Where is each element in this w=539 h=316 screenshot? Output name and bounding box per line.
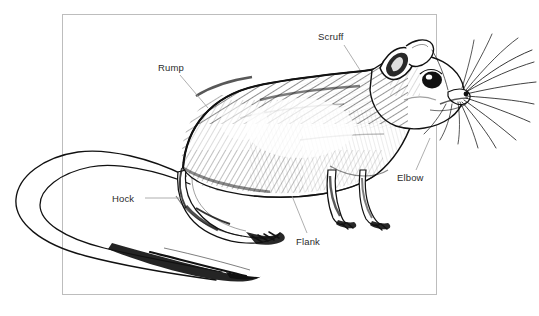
rodent-illustration bbox=[0, 0, 539, 316]
label-flank: Flank bbox=[296, 236, 320, 247]
leader-line-elbow bbox=[416, 138, 430, 170]
label-rump: Rump bbox=[158, 62, 184, 73]
label-scruff: Scruff bbox=[318, 31, 344, 42]
leader-line-scruff bbox=[344, 45, 360, 70]
label-hock: Hock bbox=[112, 193, 134, 204]
label-elbow: Elbow bbox=[397, 172, 424, 183]
diagram-page: Rump Scruff Hock Flank Elbow bbox=[0, 0, 539, 316]
leader-line-flank bbox=[292, 196, 307, 233]
